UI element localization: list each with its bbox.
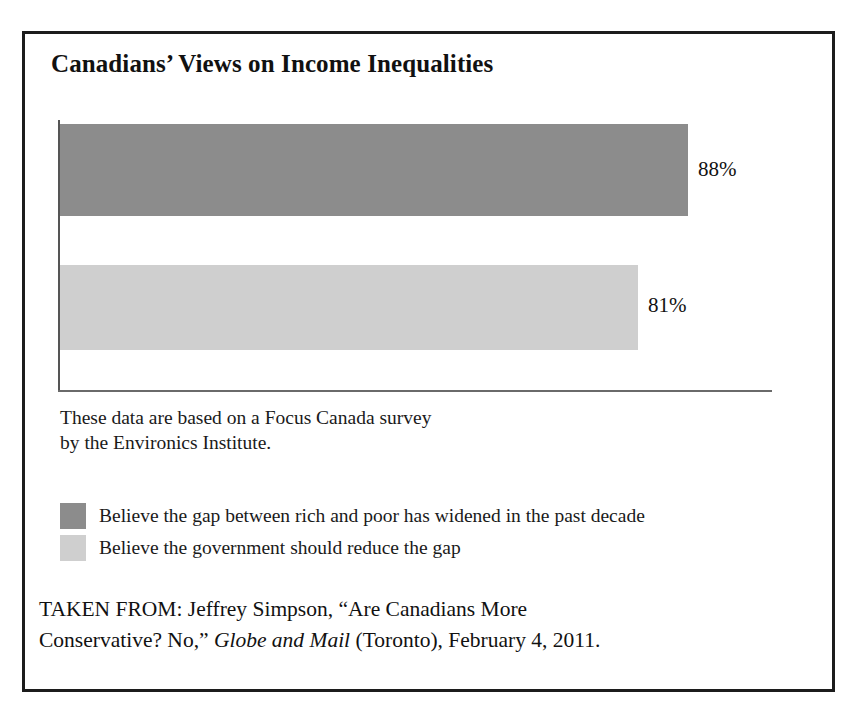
plot-area: 88% 81% bbox=[58, 120, 788, 395]
chart-legend: Believe the gap between rich and poor ha… bbox=[60, 500, 645, 564]
source-line-2-prefix: Conservative? No,” bbox=[39, 628, 214, 652]
source-publication-name: Globe and Mail bbox=[214, 628, 350, 652]
legend-swatch-light-icon bbox=[60, 535, 86, 561]
legend-swatch-dark-icon bbox=[60, 503, 86, 529]
figure-frame: Canadians’ Views on Income Inequalities … bbox=[22, 31, 835, 692]
legend-item-government-reduce: Believe the government should reduce the… bbox=[60, 532, 645, 564]
legend-label-government-reduce: Believe the government should reduce the… bbox=[99, 537, 461, 559]
x-axis-line bbox=[58, 390, 772, 392]
chart-note: These data are based on a Focus Canada s… bbox=[60, 405, 431, 455]
bar-value-label-1: 81% bbox=[648, 293, 687, 318]
legend-label-gap-widened: Believe the gap between rich and poor ha… bbox=[99, 505, 645, 527]
chart-note-line-2: by the Environics Institute. bbox=[60, 430, 431, 455]
source-line-2: Conservative? No,” Globe and Mail (Toron… bbox=[39, 625, 829, 656]
bar-series-gap-widened bbox=[60, 124, 688, 216]
source-attribution: TAKEN FROM: Jeffrey Simpson, “Are Canadi… bbox=[39, 594, 829, 656]
chart-title: Canadians’ Views on Income Inequalities bbox=[51, 50, 493, 78]
source-line-2-suffix: (Toronto), February 4, 2011. bbox=[350, 628, 600, 652]
bar-series-government-reduce bbox=[60, 265, 638, 350]
legend-item-gap-widened: Believe the gap between rich and poor ha… bbox=[60, 500, 645, 532]
bar-value-label-0: 88% bbox=[698, 157, 737, 182]
source-line-1: TAKEN FROM: Jeffrey Simpson, “Are Canadi… bbox=[39, 594, 829, 625]
chart-note-line-1: These data are based on a Focus Canada s… bbox=[60, 405, 431, 430]
